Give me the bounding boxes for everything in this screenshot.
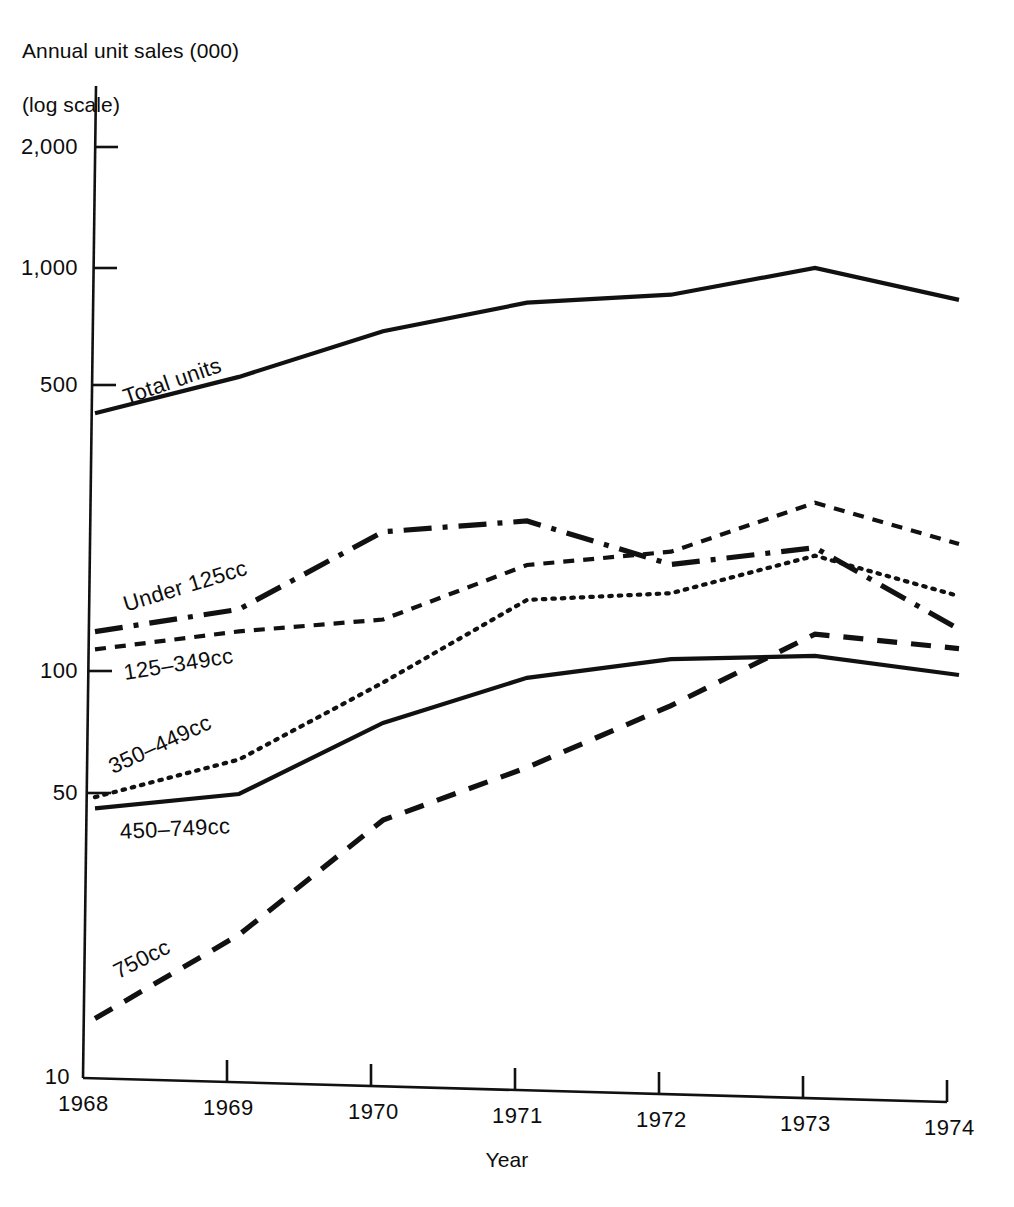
plot-area (0, 0, 1014, 1207)
chart-figure: Annual unit sales (000) (log scale) 2,00… (0, 0, 1014, 1207)
series-line-125-349cc (95, 503, 959, 650)
y-axis-ticks (88, 147, 118, 793)
series-line-450-749cc (95, 656, 959, 808)
y-axis-line (83, 86, 96, 1078)
series-line-under-125cc (95, 521, 959, 632)
series-group (95, 268, 959, 1019)
x-axis-ticks (227, 1060, 947, 1102)
series-line-total-units (95, 268, 959, 413)
series-line-750cc (95, 634, 959, 1018)
